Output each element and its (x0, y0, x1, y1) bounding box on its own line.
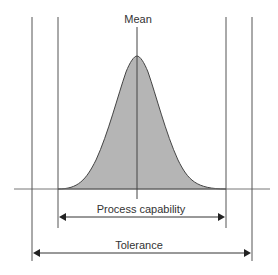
arrowhead-left-icon (59, 213, 66, 221)
normal-distribution-curve (58, 56, 226, 189)
process-capability-label: Process capability (97, 203, 186, 215)
mean-label: Mean (124, 13, 152, 25)
process-capability-diagram: Mean Process capability Tolerance (0, 0, 278, 275)
tolerance-label: Tolerance (115, 239, 163, 251)
arrowhead-right-icon (218, 213, 225, 221)
arrowhead-right-icon (244, 249, 251, 257)
diagram-svg: Mean Process capability Tolerance (0, 0, 278, 275)
arrowhead-left-icon (33, 249, 40, 257)
